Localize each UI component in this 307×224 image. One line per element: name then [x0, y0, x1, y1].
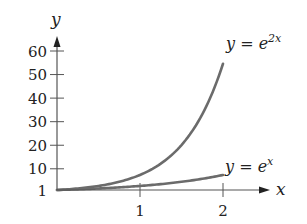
curve-label-ex-exp: x — [267, 155, 274, 168]
curve-label-ex: y = ex — [224, 155, 274, 176]
y-tick-label: 60 — [28, 43, 47, 61]
curve-label-e2x-exp: 2x — [267, 32, 282, 45]
y-tick-label: 40 — [28, 90, 47, 108]
y-tick-label: 10 — [28, 160, 47, 178]
y-tick-label: 1 — [37, 182, 47, 200]
chart: 1102030405060 12 y x y = e2x y = ex — [0, 0, 307, 224]
y-axis-label: y — [50, 9, 61, 29]
curve-label-ex-base: y = e — [224, 157, 267, 176]
y-axis-arrow-icon — [54, 36, 61, 47]
curve-e2x — [57, 64, 223, 190]
x-axis-label: x — [276, 179, 286, 199]
curves — [57, 64, 223, 190]
y-tick-label: 50 — [28, 66, 47, 84]
curve-label-e2x: y = e2x — [225, 32, 282, 53]
y-tick-label: 20 — [28, 137, 47, 155]
y-tick-label: 30 — [28, 113, 47, 131]
y-axis-ticks: 1102030405060 — [28, 43, 64, 200]
x-tick-label: 2 — [218, 202, 228, 220]
x-axis-arrow-icon — [259, 187, 270, 194]
curve-label-e2x-base: y = e — [225, 34, 268, 53]
x-axis-ticks: 12 — [135, 183, 228, 220]
x-tick-label: 1 — [135, 202, 145, 220]
